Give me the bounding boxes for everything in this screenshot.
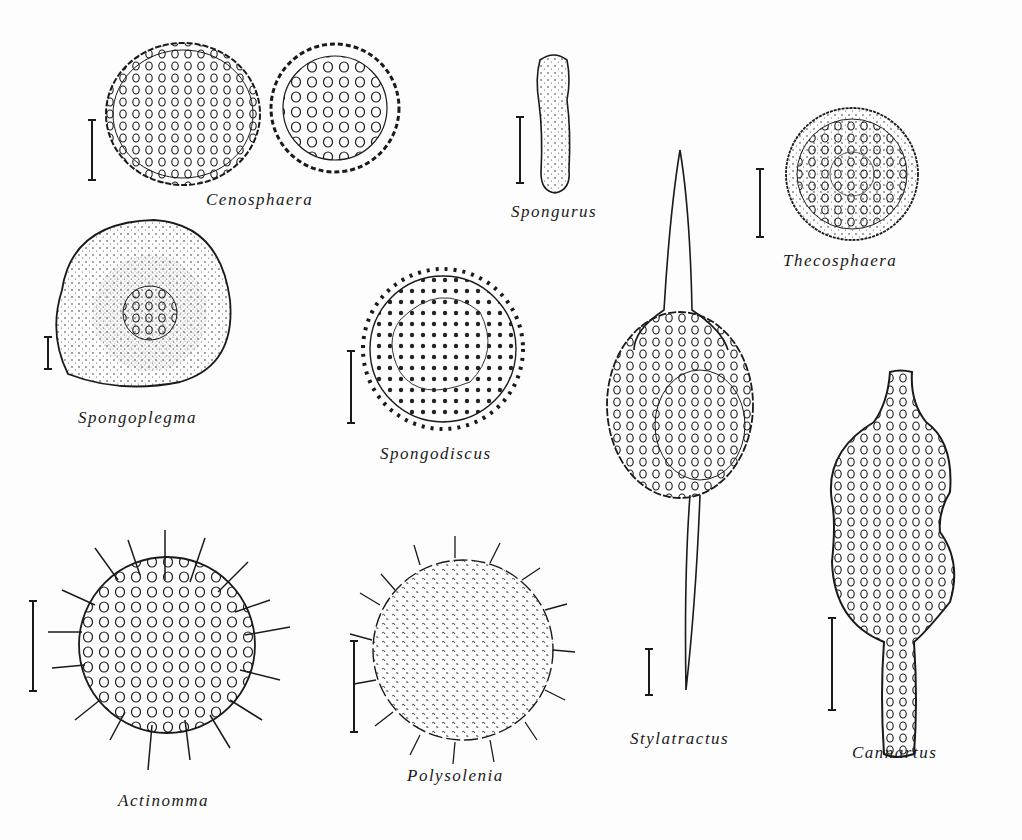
polysolenia-drawing [350,536,575,764]
scale-bar-thecosphaera [759,168,761,238]
spongodiscus-drawing [363,269,523,429]
label-stylatractus: Stylatractus [630,729,729,749]
label-actinomma: Actinomma [118,791,209,811]
label-spongodiscus: Spongodiscus [380,444,492,464]
actinomma-drawing [48,530,290,770]
scale-bar-cannartus [831,617,833,711]
stylatractus-drawing [607,150,753,690]
label-spongoplegma: Spongoplegma [78,408,197,428]
thecosphaera-drawing [786,108,918,240]
label-thecosphaera: Thecosphaera [783,251,897,271]
label-cenosphaera: Cenosphaera [206,190,313,210]
scale-bar-spongoplegma [47,336,49,370]
scale-bar-spongodiscus [350,350,352,424]
scale-bar-spongurus [519,116,521,184]
spongoplegma-drawing [56,220,230,387]
scale-bar-stylatractus [648,648,650,696]
cannartus-drawing [831,371,954,758]
cenosphaera-drawing-2 [271,44,399,172]
label-spongurus: Spongurus [511,202,597,222]
spongurus-drawing [537,55,569,193]
scale-bar-actinomma [32,600,34,692]
cenosphaera-drawing-1 [106,43,260,185]
label-polysolenia: Polysolenia [407,766,504,786]
scale-bar-polysolenia [353,640,355,733]
scale-bar-cenosphaera [91,119,93,181]
radiolaria-figure: Cenosphaera Spongurus Thecosphaera Spong… [0,0,1022,840]
label-cannartus: Cannartus [852,743,937,763]
